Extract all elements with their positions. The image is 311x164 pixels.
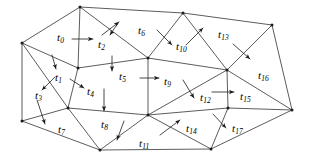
mesh-vertex-right-hub: [226, 69, 229, 72]
triangle-label-index: 0: [60, 36, 64, 45]
triangle-label-t5: t5: [119, 71, 126, 82]
triangle-label-t15: t15: [240, 91, 251, 102]
mesh-vertex-top-right: [271, 24, 274, 27]
mesh-vertex-left-lower: [21, 120, 24, 123]
triangle-label-index: 1: [58, 76, 62, 85]
triangle-label-index: 4: [90, 90, 94, 99]
orientation-arrow-t17: [213, 114, 226, 128]
mesh-edge: [68, 108, 148, 115]
triangle-label-index: 11: [142, 142, 149, 151]
triangle-label-t4: t4: [87, 86, 94, 97]
triangle-label-t1: t1: [55, 72, 62, 83]
triangle-label-t3: t3: [35, 90, 42, 101]
mesh-vertex-bottom-left: [99, 149, 102, 152]
triangle-label-t0: t0: [57, 32, 64, 43]
triangle-label-index: 9: [167, 80, 171, 89]
triangle-label-index: 17: [235, 127, 243, 136]
triangle-label-index: 16: [261, 74, 269, 83]
mesh-edge: [211, 110, 292, 149]
mesh-vertex-top-left: [79, 6, 82, 9]
triangle-label-index: 2: [101, 43, 105, 52]
triangle-label-t16: t16: [258, 70, 269, 81]
mesh-vertex-center-upper: [147, 57, 150, 60]
mesh-edge: [22, 7, 80, 43]
mesh-vertex-far-right: [291, 109, 294, 112]
triangle-label-t9: t9: [164, 76, 171, 87]
triangle-label-t7: t7: [58, 124, 65, 135]
triangle-label-index: 8: [104, 123, 108, 132]
triangle-label-index: 5: [122, 75, 126, 84]
mesh-vertex-left: [21, 42, 24, 45]
orientation-arrow-t12: [183, 80, 194, 98]
mesh-vertex-inner-left-up: [77, 67, 80, 70]
mesh-vertex-bottom-right: [210, 148, 213, 151]
triangle-label-t12: t12: [200, 92, 211, 103]
triangle-label-index: 13: [221, 33, 229, 42]
orientation-arrow-t2: [110, 23, 118, 35]
triangle-label-index: 6: [141, 29, 145, 38]
triangle-label-t2: t2: [98, 39, 105, 50]
mesh-vertex-inner-left-low: [67, 107, 70, 110]
orientation-arrow-t7: [37, 100, 45, 124]
mesh-vertex-top-mid: [182, 12, 185, 15]
orientation-arrow-t11: [117, 121, 124, 140]
mesh-edge: [227, 25, 272, 70]
mesh-edge: [148, 70, 227, 115]
triangle-label-index: 14: [189, 127, 197, 136]
mesh-edge: [183, 13, 272, 25]
mesh-edge: [22, 108, 68, 121]
triangle-label-index: 3: [38, 94, 42, 103]
mesh-vertex-center-hub: [147, 114, 150, 117]
orientation-arrow-t3: [42, 77, 55, 90]
mesh-edge: [148, 58, 227, 70]
mesh-edge: [78, 58, 148, 68]
triangle-label-t17: t17: [232, 123, 243, 134]
mesh-edge: [68, 68, 78, 108]
mesh-edge: [78, 7, 80, 68]
triangle-label-t11: t11: [139, 138, 149, 149]
triangulated-mesh-figure: t0t1t2t3t4t5t6t7t8t9t10t11t12t13t14t15t1…: [0, 0, 311, 164]
triangle-label-t8: t8: [101, 119, 108, 130]
triangle-label-index: 15: [243, 95, 251, 104]
triangle-label-t13: t13: [218, 29, 229, 40]
mesh-edge: [100, 149, 211, 150]
mesh-edge: [148, 108, 228, 115]
triangle-label-index: 12: [203, 96, 211, 105]
orientation-arrow-t10: [157, 30, 172, 45]
mesh-edge: [272, 25, 292, 110]
triangle-label-t10: t10: [176, 41, 187, 52]
mesh-edge: [227, 70, 228, 108]
mesh-vertex-right-low: [227, 107, 230, 110]
triangle-label-index: 7: [61, 128, 65, 137]
triangle-label-t6: t6: [138, 25, 145, 36]
orientation-arrow-t16: [233, 44, 250, 59]
mesh-edge: [80, 7, 183, 13]
orientation-arrow-t6: [102, 22, 119, 35]
triangle-label-t14: t14: [186, 123, 197, 134]
triangle-label-index: 10: [179, 45, 187, 54]
orientation-arrow-t4: [70, 79, 84, 88]
orientation-arrow-t14: [160, 120, 180, 135]
orientation-arrow-t13: [186, 28, 203, 45]
mesh-edge: [228, 108, 292, 110]
